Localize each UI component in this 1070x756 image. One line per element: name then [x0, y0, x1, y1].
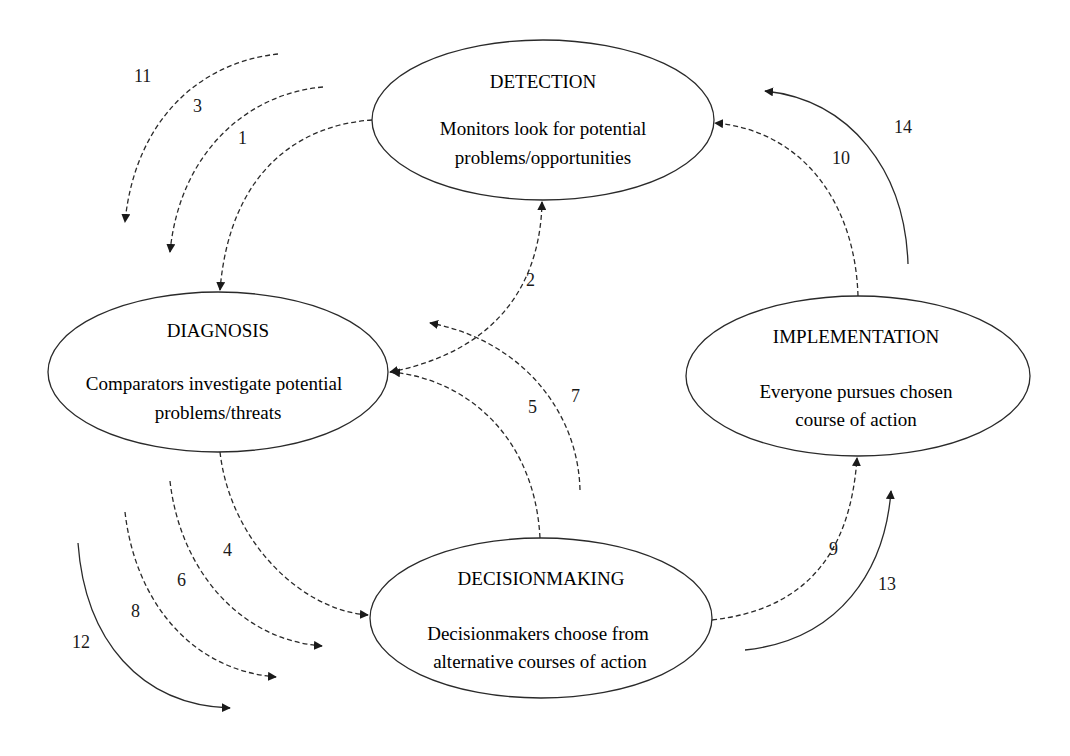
- arrow-14: [765, 91, 908, 264]
- edge-label-3: 3: [193, 96, 202, 116]
- node-detection: DETECTION Monitors look for potential pr…: [372, 40, 714, 200]
- arrow-4: [220, 452, 368, 615]
- node-title: DETECTION: [490, 71, 597, 92]
- cycle-diagram: DETECTION Monitors look for potential pr…: [0, 0, 1070, 756]
- node-desc-line1: Monitors look for potential: [440, 118, 646, 139]
- edge-label-4: 4: [223, 540, 232, 560]
- arrow-8: [125, 512, 276, 677]
- arrow-12: [78, 543, 230, 708]
- edge-label-10: 10: [832, 148, 850, 168]
- arrow-7: [430, 323, 580, 490]
- edge-label-7: 7: [571, 386, 580, 406]
- node-title: DECISIONMAKING: [458, 568, 625, 589]
- edge-label-9: 9: [829, 539, 838, 559]
- node-implementation: IMPLEMENTATION Everyone pursues chosen c…: [686, 296, 1030, 456]
- edge-label-5: 5: [528, 397, 537, 417]
- edge-label-6: 6: [177, 570, 186, 590]
- arrow-6: [170, 481, 322, 646]
- edge-label-14: 14: [894, 117, 912, 137]
- node-title: DIAGNOSIS: [167, 320, 269, 341]
- edge-label-2: 2: [526, 270, 535, 290]
- node-desc-line1: Everyone pursues chosen: [759, 381, 953, 402]
- node-desc-line1: Comparators investigate potential: [86, 373, 342, 394]
- node-decisionmaking: DECISIONMAKING Decisionmakers choose fro…: [370, 538, 712, 698]
- edge-label-12: 12: [72, 632, 90, 652]
- arrow-5: [392, 372, 540, 538]
- arrow-13: [745, 491, 891, 650]
- node-desc-line2: problems/opportunities: [455, 147, 631, 168]
- node-title: IMPLEMENTATION: [773, 326, 940, 347]
- node-diagnosis: DIAGNOSIS Comparators investigate potent…: [48, 292, 388, 452]
- edge-label-13: 13: [878, 574, 896, 594]
- node-desc-line2: problems/threats: [155, 402, 282, 423]
- edge-label-1: 1: [238, 128, 247, 148]
- node-desc-line2: alternative courses of action: [433, 651, 647, 672]
- node-desc-line1: Decisionmakers choose from: [427, 623, 649, 644]
- arrow-2: [390, 202, 542, 372]
- node-desc-line2: course of action: [795, 409, 917, 430]
- edge-label-8: 8: [131, 601, 140, 621]
- edge-label-11: 11: [134, 66, 151, 86]
